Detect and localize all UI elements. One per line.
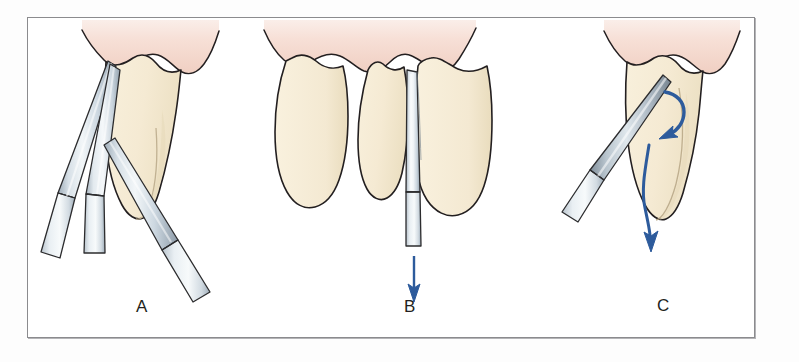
panel-label-b: B [404,297,416,317]
figure-root: A B C [0,0,799,362]
panel-label-a: A [136,297,148,317]
panel-label-c: C [657,296,670,316]
figure-frame [27,17,755,338]
